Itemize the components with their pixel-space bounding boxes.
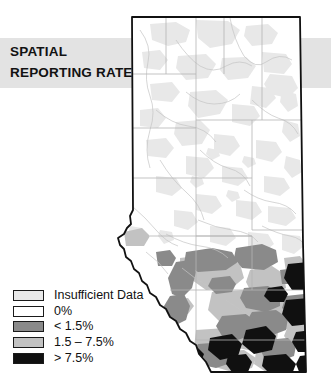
page-title-line-1: SPATIAL bbox=[10, 41, 190, 62]
legend-label-under-1-5-percent: < 1.5% bbox=[54, 320, 93, 333]
legend-label-zero-percent: 0% bbox=[54, 305, 72, 318]
swatch-under-1-5-percent bbox=[13, 321, 44, 332]
legend-item-over-7-5-percent: > 7.5% bbox=[13, 350, 143, 366]
figure-root: SPATIAL REPORTING RATE bbox=[0, 0, 331, 387]
legend-item-under-1-5-percent: < 1.5% bbox=[13, 319, 143, 335]
page-title-line-2: REPORTING RATE bbox=[10, 62, 190, 83]
legend-label-insufficient-data: Insufficient Data bbox=[54, 289, 143, 302]
page-title: SPATIAL REPORTING RATE bbox=[10, 41, 190, 83]
legend-item-insufficient-data: Insufficient Data bbox=[13, 288, 143, 304]
swatch-zero-percent bbox=[13, 306, 44, 317]
legend-item-1-5-to-7-5-percent: 1.5 – 7.5% bbox=[13, 335, 143, 351]
legend-item-zero-percent: 0% bbox=[13, 304, 143, 320]
swatch-over-7-5-percent bbox=[13, 353, 44, 364]
legend-label-over-7-5-percent: > 7.5% bbox=[54, 352, 93, 365]
swatch-insufficient-data bbox=[13, 290, 44, 301]
legend-label-1-5-to-7-5-percent: 1.5 – 7.5% bbox=[54, 336, 114, 349]
swatch-1-5-to-7-5-percent bbox=[13, 337, 44, 348]
map-legend: Insufficient Data 0% < 1.5% 1.5 – 7.5% >… bbox=[13, 288, 143, 366]
